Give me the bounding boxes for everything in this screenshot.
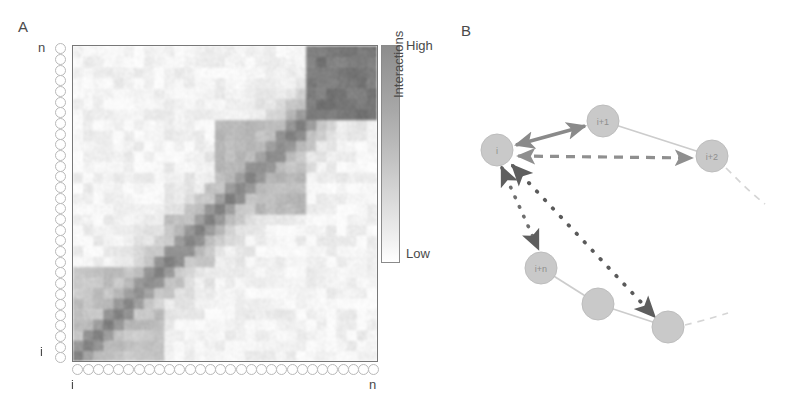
residue-vertical xyxy=(55,257,66,268)
colorbar-axis-title: Interactions xyxy=(391,0,406,98)
residue-horizontal xyxy=(327,364,338,375)
residue-vertical xyxy=(55,161,66,172)
panel-b: B xyxy=(440,0,790,411)
chain-tail-i2 xyxy=(726,168,765,204)
residue-vertical xyxy=(55,310,66,321)
residue-vertical xyxy=(55,150,66,161)
node-unlabeled-1[interactable] xyxy=(582,288,614,320)
residue-vertical xyxy=(55,97,66,108)
edge-i-to-i2 xyxy=(518,156,692,158)
y-axis-top-label: n xyxy=(38,40,45,55)
residue-horizontal xyxy=(368,364,379,375)
residue-horizontal xyxy=(174,364,185,375)
residue-horizontal xyxy=(72,364,83,375)
colorbar-high-label: High xyxy=(406,38,433,53)
residue-network-diagram: i i+1 i+2 i+n xyxy=(440,0,790,411)
residue-horizontal xyxy=(134,364,145,375)
node-i-plus-n-label: i+n xyxy=(535,264,547,274)
residue-horizontal xyxy=(225,364,236,375)
panel-a-label: A xyxy=(18,18,29,35)
residue-vertical xyxy=(55,320,66,331)
x-axis-left-label: i xyxy=(71,377,74,392)
residue-vertical xyxy=(55,299,66,310)
residue-vertical xyxy=(55,267,66,278)
panel-a: A n i i n High Low Interactions xyxy=(0,0,440,411)
edge-i-to-i1 xyxy=(516,126,585,145)
residue-vertical xyxy=(55,289,66,300)
node-unlabeled-2[interactable] xyxy=(652,311,684,343)
residue-vertical xyxy=(55,107,66,118)
backbone-edge-i1-i2 xyxy=(603,121,712,156)
colorbar-low-label: Low xyxy=(406,246,430,261)
residue-vertical xyxy=(55,203,66,214)
x-axis-right-label: n xyxy=(369,377,376,392)
residue-horizontal xyxy=(276,364,287,375)
node-i-label: i xyxy=(496,146,498,156)
residue-vertical xyxy=(55,342,66,353)
residue-vertical xyxy=(55,118,66,129)
network-nodes: i i+1 i+2 i+n xyxy=(481,105,728,343)
residue-vertical xyxy=(55,139,66,150)
heatmap-canvas xyxy=(73,46,377,361)
residue-chain-horizontal xyxy=(73,364,379,375)
residue-vertical xyxy=(55,43,66,54)
residue-vertical xyxy=(55,235,66,246)
residue-vertical xyxy=(55,86,66,97)
interaction-edges xyxy=(502,126,692,316)
backbone-edges xyxy=(541,121,712,327)
interaction-heatmap xyxy=(72,45,378,362)
residue-chain-vertical xyxy=(55,44,66,363)
residue-vertical xyxy=(55,193,66,204)
node-i-plus-1-label: i+1 xyxy=(597,117,609,127)
residue-vertical xyxy=(55,331,66,342)
chain-tails xyxy=(685,168,765,325)
residue-horizontal xyxy=(123,364,134,375)
residue-vertical xyxy=(55,54,66,65)
residue-vertical xyxy=(55,225,66,236)
residue-vertical xyxy=(55,171,66,182)
residue-vertical xyxy=(55,278,66,289)
residue-vertical xyxy=(55,352,66,363)
edge-i-to-in xyxy=(502,168,538,248)
residue-vertical xyxy=(55,65,66,76)
chain-tail-u2 xyxy=(685,313,728,325)
y-axis-bottom-label: i xyxy=(40,344,43,359)
residue-horizontal xyxy=(83,364,94,375)
residue-vertical xyxy=(55,75,66,86)
residue-vertical xyxy=(55,129,66,140)
node-i-plus-2-label: i+2 xyxy=(706,152,718,162)
residue-vertical xyxy=(55,246,66,257)
edge-i-to-far xyxy=(513,166,654,316)
residue-vertical xyxy=(55,182,66,193)
residue-vertical xyxy=(55,214,66,225)
residue-horizontal xyxy=(185,364,196,375)
figure-root: A n i i n High Low Interactions B xyxy=(0,0,790,411)
